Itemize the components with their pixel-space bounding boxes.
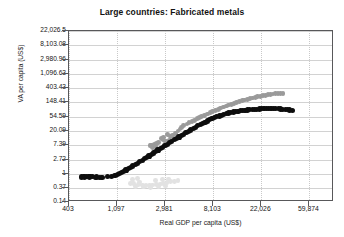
gridline-horizontal: [69, 160, 332, 161]
y-tick-label: 8,103.08: [8, 40, 66, 47]
x-tick-label: 403: [43, 205, 93, 212]
y-tick-label: 20.09: [8, 126, 66, 133]
x-tick-mark: [116, 201, 117, 206]
x-tick-mark: [260, 201, 261, 206]
x-tick-mark: [68, 201, 69, 206]
x-tick-label: 1,097: [91, 205, 141, 212]
data-point: [99, 175, 104, 180]
x-tick-label: 59,874: [283, 205, 333, 212]
x-axis-title: Real GDP per capita (US$): [68, 219, 333, 226]
data-point: [135, 176, 140, 181]
gridline-horizontal: [69, 102, 332, 103]
y-tick-label: 7.39: [8, 140, 66, 147]
data-point: [163, 184, 168, 189]
x-tick-mark: [164, 201, 165, 206]
y-tick-label: 148.41: [8, 97, 66, 104]
y-tick-label: 0.37: [8, 183, 66, 190]
x-tick-label: 2,981: [139, 205, 189, 212]
x-tick-label: 8,103: [187, 205, 237, 212]
y-tick-label: 1,096.63: [8, 69, 66, 76]
data-point: [130, 177, 135, 182]
y-tick-label: 1: [8, 169, 66, 176]
gridline-horizontal: [69, 88, 332, 89]
gridline-horizontal: [69, 145, 332, 146]
gridline-horizontal: [69, 60, 332, 61]
x-tick-mark: [308, 201, 309, 206]
chart-title: Large countries: Fabricated metals: [0, 7, 344, 17]
gridline-vertical: [165, 31, 166, 200]
gridline-vertical: [69, 31, 70, 200]
x-tick-mark: [212, 201, 213, 206]
data-point: [281, 91, 286, 96]
gridline-horizontal: [69, 131, 332, 132]
data-point: [160, 177, 165, 182]
data-point: [176, 178, 181, 183]
data-point: [156, 184, 161, 189]
data-point: [133, 184, 138, 189]
plot-area: [68, 30, 333, 201]
gridline-horizontal: [69, 45, 332, 46]
y-tick-label: 0.14: [8, 197, 66, 204]
y-tick-label: 2.72: [8, 155, 66, 162]
data-point: [148, 185, 153, 190]
gridline-horizontal: [69, 188, 332, 189]
gridline-horizontal: [69, 31, 332, 32]
data-point: [290, 108, 295, 113]
y-tick-label: 22,026.5: [8, 26, 66, 33]
x-tick-label: 22,026: [235, 205, 285, 212]
gridline-horizontal: [69, 74, 332, 75]
y-tick-label: 403.43: [8, 83, 66, 90]
y-tick-label: 54.59: [8, 112, 66, 119]
chart-container: Large countries: Fabricated metals VA pe…: [0, 0, 344, 237]
gridline-vertical: [309, 31, 310, 200]
y-tick-label: 2,980.96: [8, 55, 66, 62]
gridline-vertical: [261, 31, 262, 200]
